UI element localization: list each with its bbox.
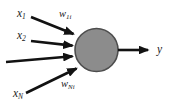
weight-label-wni-subscript: Ni — [68, 83, 75, 90]
output-label-y-base: y — [157, 43, 162, 55]
input-label-x2: x2 — [17, 30, 26, 43]
input-arrow-3 — [6, 56, 73, 62]
diagram-canvas: x1 x2 xN w1i wNi y — [0, 0, 174, 111]
output-label-y: y — [157, 44, 162, 56]
input-arrow-2 — [31, 41, 73, 46]
neuron-diagram — [0, 0, 174, 111]
input-label-x2-subscript: 2 — [22, 34, 26, 43]
weight-label-w1i: w1i — [59, 9, 71, 21]
input-label-x1: x1 — [17, 8, 26, 21]
weight-label-w1i-base: w — [59, 8, 66, 19]
neuron-body — [75, 29, 118, 72]
input-label-x1-subscript: 1 — [22, 12, 26, 21]
weight-label-wni: wNi — [61, 79, 75, 91]
input-label-xn: xN — [13, 88, 23, 101]
weight-label-w1i-subscript: 1i — [66, 13, 71, 20]
input-label-xn-subscript: N — [18, 92, 23, 101]
weight-label-wni-base: w — [61, 78, 68, 89]
